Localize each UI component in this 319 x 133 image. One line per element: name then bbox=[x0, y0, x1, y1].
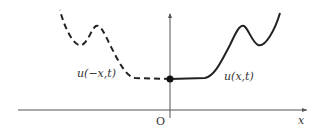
x-axis-arrow bbox=[302, 108, 307, 112]
even-extension-diagram: u(−x,t) u(x,t) O x bbox=[0, 0, 319, 133]
label-right-curve: u(x,t) bbox=[224, 70, 254, 83]
label-x-axis: x bbox=[298, 114, 305, 127]
origin-value-dot bbox=[167, 76, 174, 83]
label-left-curve: u(−x,t) bbox=[77, 67, 116, 80]
y-axis-arrow bbox=[168, 13, 172, 18]
label-origin: O bbox=[156, 115, 165, 128]
